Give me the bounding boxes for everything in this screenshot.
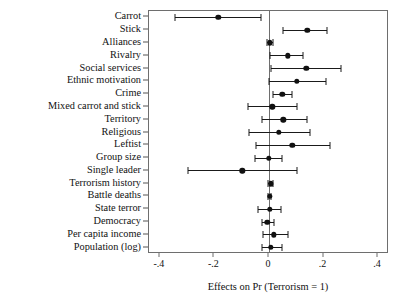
- ci-lower-cap: [273, 91, 274, 98]
- ci-lower-cap: [269, 78, 270, 85]
- y-axis-label: Carrot: [115, 11, 141, 21]
- y-axis-label: Alliances: [102, 37, 141, 47]
- x-axis-ticks: -.4-.20.2.4: [148, 253, 388, 263]
- ci-lower-cap: [262, 244, 263, 251]
- ci-upper-cap: [303, 52, 304, 59]
- coefficient-row: [149, 229, 387, 240]
- ci-lower-cap: [174, 14, 175, 21]
- point-estimate-marker: [240, 168, 245, 173]
- ci-upper-cap: [296, 167, 297, 174]
- y-axis-label: Stick: [120, 24, 141, 34]
- coefficient-row: [149, 114, 387, 125]
- ci-lower-cap: [283, 27, 284, 34]
- point-estimate-marker: [304, 66, 309, 71]
- y-axis-label: Battle deaths: [88, 190, 141, 200]
- point-estimate-marker: [294, 79, 299, 84]
- ci-upper-cap: [292, 91, 293, 98]
- ci-upper-cap: [296, 103, 297, 110]
- x-axis-tick-mark: [268, 253, 269, 257]
- point-estimate-marker: [270, 104, 275, 109]
- x-axis-tick-mark: [213, 253, 214, 257]
- y-axis-category-labels: CarrotStickAlliancesRivalrySocial servic…: [0, 10, 148, 253]
- point-estimate-marker: [276, 130, 281, 135]
- ci-lower-cap: [188, 167, 189, 174]
- coefficient-row: [149, 101, 387, 112]
- y-axis-label: Democracy: [94, 216, 141, 226]
- coefficient-row: [149, 178, 387, 189]
- y-axis-label: Terrorism history: [69, 178, 141, 188]
- ci-upper-cap: [280, 206, 281, 213]
- ci-upper-cap: [273, 39, 274, 46]
- ci-lower-cap: [269, 52, 270, 59]
- y-axis-label: Single leader: [87, 165, 141, 175]
- ci-upper-cap: [281, 244, 282, 251]
- point-estimate-marker: [271, 232, 276, 237]
- ci-upper-cap: [309, 129, 310, 136]
- point-estimate-marker: [267, 207, 272, 212]
- ci-upper-cap: [273, 219, 274, 226]
- point-estimate-marker: [216, 15, 221, 20]
- x-axis-tick-label: .2: [319, 258, 327, 269]
- coefficient-row: [149, 76, 387, 87]
- y-axis-label: Mixed carrot and stick: [48, 101, 141, 111]
- ci-upper-cap: [307, 116, 308, 123]
- y-axis-label: Rivalry: [110, 50, 141, 60]
- point-estimate-marker: [290, 143, 295, 148]
- point-estimate-marker: [266, 155, 271, 160]
- coefficient-row: [149, 204, 387, 215]
- x-axis-tick-label: -.2: [208, 258, 219, 269]
- point-estimate-marker: [304, 27, 309, 32]
- ci-upper-cap: [282, 155, 283, 162]
- y-axis-label: Religious: [102, 126, 141, 136]
- point-estimate-marker: [285, 53, 290, 58]
- coefficient-row: [149, 165, 387, 176]
- ci-lower-cap: [258, 206, 259, 213]
- ci-upper-cap: [288, 231, 289, 238]
- coefficient-row: [149, 191, 387, 202]
- coefficient-row: [149, 140, 387, 151]
- ci-upper-cap: [325, 78, 326, 85]
- y-axis-label: State terror: [95, 203, 141, 213]
- coefficient-row: [149, 127, 387, 138]
- y-axis-label: Per capita income: [67, 229, 141, 239]
- x-axis-tick-label: -.4: [153, 258, 164, 269]
- ci-upper-cap: [327, 27, 328, 34]
- coefficient-row: [149, 153, 387, 164]
- point-estimate-marker: [280, 91, 285, 96]
- plot-area: [148, 10, 388, 253]
- coefficient-row: [149, 12, 387, 23]
- coefficient-row: [149, 217, 387, 228]
- y-axis-label: Ethnic motivation: [67, 75, 141, 85]
- y-axis-label: Group size: [96, 152, 141, 162]
- point-estimate-marker: [280, 117, 285, 122]
- ci-lower-cap: [261, 116, 262, 123]
- x-axis-tick-mark: [377, 253, 378, 257]
- x-axis-tick-label: 0: [266, 258, 271, 269]
- ci-upper-cap: [329, 142, 330, 149]
- y-axis-label: Social services: [80, 62, 141, 72]
- ci-lower-cap: [249, 129, 250, 136]
- x-axis-title: Effects on Pr (Terrorism = 1): [148, 281, 388, 293]
- y-axis-label: Population (log): [74, 241, 141, 251]
- ci-upper-cap: [340, 65, 341, 72]
- ci-lower-cap: [256, 142, 257, 149]
- x-axis-tick-mark: [322, 253, 323, 257]
- coefficient-row: [149, 50, 387, 61]
- coefficient-row: [149, 242, 387, 253]
- x-axis-tick-label: .4: [373, 258, 381, 269]
- ci-lower-cap: [270, 65, 271, 72]
- coefficient-row: [149, 25, 387, 36]
- point-estimate-marker: [268, 245, 273, 250]
- coefficient-plot-figure: CarrotStickAlliancesRivalrySocial servic…: [0, 0, 401, 303]
- ci-lower-cap: [248, 103, 249, 110]
- x-axis-tick-mark: [158, 253, 159, 257]
- ci-upper-cap: [260, 14, 261, 21]
- point-estimate-marker: [265, 219, 270, 224]
- coefficient-row: [149, 37, 387, 48]
- coefficient-row: [149, 63, 387, 74]
- ci-lower-cap: [261, 219, 262, 226]
- y-axis-label: Territory: [105, 114, 141, 124]
- y-axis-label: Leftist: [114, 139, 141, 149]
- coefficient-row: [149, 89, 387, 100]
- y-axis-label: Crime: [115, 88, 141, 98]
